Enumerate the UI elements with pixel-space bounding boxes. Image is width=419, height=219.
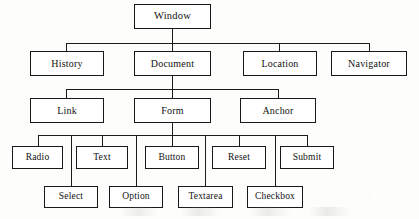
node-option[interactable]: Option	[109, 186, 163, 208]
node-navigator[interactable]: Navigator	[331, 51, 407, 76]
node-location[interactable]: Location	[243, 51, 317, 76]
node-select[interactable]: Select	[44, 186, 98, 208]
scan-artifact	[120, 207, 350, 216]
node-link[interactable]: Link	[30, 98, 104, 123]
node-button[interactable]: Button	[145, 146, 199, 169]
node-history[interactable]: History	[30, 51, 104, 76]
node-document-label: Document	[151, 59, 194, 69]
edge-drop-checkbox	[275, 135, 276, 186]
edge-bus-level2	[66, 43, 370, 44]
node-window-label: Window	[154, 11, 191, 22]
edge-drop-text	[102, 135, 103, 146]
edge-drop-select	[71, 135, 72, 186]
node-location-label: Location	[261, 59, 298, 69]
edge-drop-anchor	[278, 89, 279, 98]
node-reset[interactable]: Reset	[212, 146, 266, 169]
node-text-label: Text	[93, 153, 111, 163]
edge-drop-radio	[38, 135, 39, 146]
node-submit-label: Submit	[293, 153, 322, 163]
node-textarea-label: Textarea	[188, 192, 222, 202]
node-radio-label: Radio	[26, 153, 50, 163]
edge-drop-link	[66, 89, 67, 98]
node-reset-label: Reset	[228, 153, 250, 163]
node-navigator-label: Navigator	[348, 59, 390, 69]
edge-drop-button	[172, 135, 173, 146]
node-button-label: Button	[158, 153, 185, 163]
node-window[interactable]: Window	[134, 4, 211, 29]
node-select-label: Select	[59, 192, 83, 202]
node-text[interactable]: Text	[76, 146, 128, 169]
node-form-label: Form	[161, 106, 183, 116]
node-form[interactable]: Form	[134, 98, 211, 123]
node-anchor[interactable]: Anchor	[240, 98, 316, 123]
node-history-label: History	[51, 59, 82, 69]
node-checkbox[interactable]: Checkbox	[247, 186, 303, 208]
node-radio[interactable]: Radio	[12, 146, 63, 169]
node-anchor-label: Anchor	[262, 106, 293, 116]
edge-drop-option	[136, 135, 137, 186]
node-textarea[interactable]: Textarea	[178, 186, 233, 208]
edge-drop-reset	[239, 135, 240, 146]
edge-window-stem	[172, 29, 173, 44]
diagram-canvas: Window History Document Location Navigat…	[0, 0, 419, 219]
node-document[interactable]: Document	[134, 51, 211, 76]
edge-document-stem	[172, 76, 173, 90]
edge-drop-form	[172, 89, 173, 98]
edge-drop-submit	[307, 135, 308, 146]
node-submit[interactable]: Submit	[280, 146, 334, 169]
edge-drop-textarea	[205, 135, 206, 186]
node-option-label: Option	[122, 192, 150, 202]
node-link-label: Link	[57, 106, 77, 116]
node-checkbox-label: Checkbox	[255, 192, 295, 202]
